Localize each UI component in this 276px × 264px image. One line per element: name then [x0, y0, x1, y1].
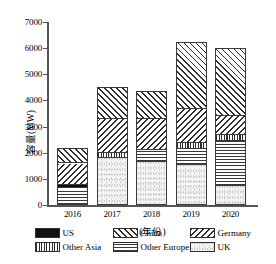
y-axis-tick — [43, 100, 47, 101]
bar-2020 — [215, 48, 246, 205]
bar-segment-germany — [177, 109, 206, 143]
legend-item-othereurope[interactable]: Other Europe — [113, 242, 189, 252]
legend-label: UK — [218, 243, 231, 252]
bar-segment-china — [177, 42, 206, 109]
legend-swatch-othereurope-icon — [113, 242, 138, 252]
y-axis-tick — [43, 205, 47, 206]
bar-segment-othereurope — [216, 141, 245, 185]
bar-segment-othereurope — [137, 150, 166, 162]
legend-swatch-germany-icon — [190, 228, 215, 238]
bar-segment-uk — [98, 158, 127, 204]
y-axis-ticklabel: 4000 — [25, 96, 42, 105]
chart-figure: 容量(MW) 01000200030004000500060007000 201… — [0, 0, 276, 264]
legend-label: US — [63, 229, 75, 238]
legend-label: China — [141, 229, 163, 238]
legend: USChinaGermanyOther AsiaOther EuropeUK — [35, 228, 245, 256]
y-axis-ticklabel: 3000 — [25, 122, 42, 131]
legend-item-us[interactable]: US — [35, 228, 74, 238]
y-axis-ticklabel: 1000 — [25, 174, 42, 183]
bar-segment-othereurope — [177, 149, 206, 165]
bar-segment-china — [58, 148, 87, 164]
bar-segment-china — [98, 87, 127, 119]
y-axis-ticklabel: 0 — [38, 201, 42, 210]
bar-segment-us — [58, 185, 87, 188]
bar-2019 — [176, 42, 207, 205]
legend-item-uk[interactable]: UK — [190, 242, 231, 252]
legend-swatch-china-icon — [113, 228, 138, 238]
bar-segment-otherasia — [98, 153, 127, 158]
plot-area: 01000200030004000500060007000 2016201720… — [47, 22, 258, 205]
bar-2016 — [57, 148, 88, 206]
bar-segment-germany — [137, 119, 166, 150]
y-axis-ticklabel: 7000 — [25, 18, 42, 27]
bar-segment-germany — [216, 116, 245, 134]
y-axis-tick — [43, 179, 47, 180]
y-axis-ticklabel: 2000 — [25, 148, 42, 157]
legend-label: Germany — [218, 229, 252, 238]
legend-item-germany[interactable]: Germany — [190, 228, 251, 238]
y-axis-ticklabel: 6000 — [25, 44, 42, 53]
y-axis-tick — [43, 127, 47, 128]
bar-segment-germany — [98, 119, 127, 153]
legend-swatch-uk-icon — [190, 242, 215, 252]
bar-segment-uk — [177, 165, 206, 204]
legend-swatch-otherasia-icon — [35, 242, 60, 252]
bar-segment-china — [216, 48, 245, 116]
y-axis-line — [47, 22, 49, 205]
y-axis-tick — [43, 153, 47, 154]
legend-label: Other Europe — [141, 243, 190, 252]
bar-segment-uk — [137, 162, 166, 204]
legend-label: Other Asia — [63, 243, 102, 252]
legend-item-china[interactable]: China — [113, 228, 162, 238]
bar-segment-germany — [58, 164, 87, 186]
bar-segment-china — [137, 91, 166, 119]
bar-segment-otherasia — [177, 143, 206, 150]
y-axis-tick — [43, 22, 47, 23]
legend-item-otherasia[interactable]: Other Asia — [35, 242, 101, 252]
y-axis-tick — [43, 48, 47, 49]
y-axis-ticklabel: 5000 — [25, 70, 42, 79]
bar-segment-othereurope — [58, 188, 87, 204]
bar-segment-otherasia — [216, 135, 245, 142]
legend-swatch-us-icon — [35, 228, 60, 238]
y-axis-tick — [43, 74, 47, 75]
bar-2017 — [97, 87, 128, 205]
x-axis-line — [47, 205, 258, 207]
x-axis-ticklabel: 2020 — [206, 210, 256, 219]
bar-2018 — [136, 91, 167, 205]
bar-segment-uk — [216, 186, 245, 204]
